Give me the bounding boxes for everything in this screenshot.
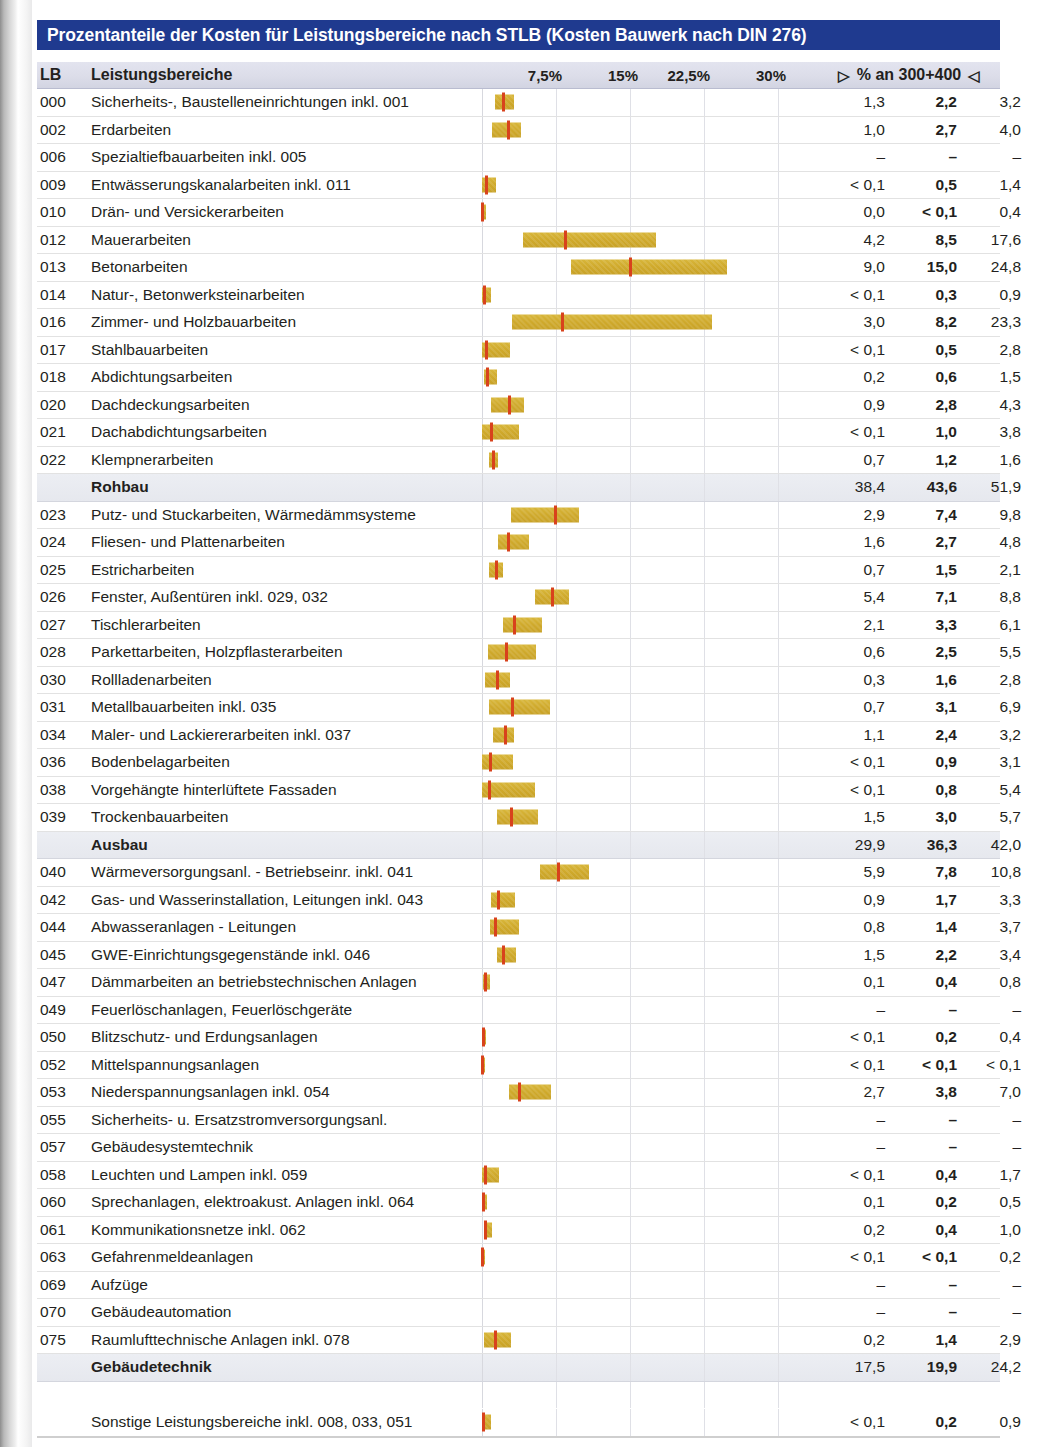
cell-median: 2,2 xyxy=(889,942,957,969)
gridline-g4 xyxy=(778,117,779,144)
cell-max: 3,2 xyxy=(959,89,1021,116)
cell-max: 23,3 xyxy=(959,309,1021,336)
cell-lb: 058 xyxy=(40,1162,88,1189)
cell-name: Trockenbauarbeiten xyxy=(91,804,481,831)
gridline-g4 xyxy=(778,1162,779,1189)
gridline-g0 xyxy=(482,612,483,639)
cell-min: 0,0 xyxy=(797,199,885,226)
gridline-g1 xyxy=(556,254,557,281)
cell-min: 0,7 xyxy=(797,557,885,584)
cell-bar-chart xyxy=(480,722,805,749)
cell-bar-chart xyxy=(480,804,805,831)
gridline-g1 xyxy=(556,474,557,501)
cell-min: < 0,1 xyxy=(797,337,885,364)
cell-median: 2,7 xyxy=(889,529,957,556)
cell-median: 2,7 xyxy=(889,117,957,144)
median-marker xyxy=(510,808,513,827)
cell-bar-chart xyxy=(480,254,805,281)
cell-name: Mauerarbeiten xyxy=(91,227,481,254)
cell-max: – xyxy=(959,1272,1021,1299)
cell-min: 0,6 xyxy=(797,639,885,666)
cell-max: 1,4 xyxy=(959,172,1021,199)
cell-lb: 022 xyxy=(40,447,88,474)
cell-max: – xyxy=(959,997,1021,1024)
cell-bar-chart xyxy=(480,997,805,1024)
cell-lb: 025 xyxy=(40,557,88,584)
gridline-g3 xyxy=(704,1299,705,1326)
gridline-g1 xyxy=(556,172,557,199)
range-bar xyxy=(497,810,538,825)
gridline-g4 xyxy=(778,254,779,281)
table-row: 070Gebäudeautomation––– xyxy=(37,1299,1000,1327)
cell-bar-chart xyxy=(480,1244,805,1271)
gridline-g3 xyxy=(704,1079,705,1106)
gridline-g2 xyxy=(630,529,631,556)
cell-bar-chart xyxy=(480,337,805,364)
gridline-g3 xyxy=(704,914,705,941)
gridline-g2 xyxy=(630,419,631,446)
gridline-g1 xyxy=(556,942,557,969)
cell-name: Gefahrenmeldeanlagen xyxy=(91,1244,481,1271)
cell-name: Natur-, Betonwerksteinarbeiten xyxy=(91,282,481,309)
table-row: 058Leuchten und Lampen inkl. 059< 0,10,4… xyxy=(37,1162,1000,1190)
gridline-g1 xyxy=(556,667,557,694)
gridline-g4 xyxy=(778,914,779,941)
cell-min: < 0,1 xyxy=(797,749,885,776)
cell-name: Gas- und Wasserinstallation, Leitungen i… xyxy=(91,887,481,914)
gridline-g2 xyxy=(630,667,631,694)
table-row: 023Putz- und Stuckarbeiten, Wärmedämmsys… xyxy=(37,502,1000,530)
cell-name: Rollladenarbeiten xyxy=(91,667,481,694)
cell-bar-chart xyxy=(480,1299,805,1326)
cell-median: 3,0 xyxy=(889,804,957,831)
gridline-g2 xyxy=(630,1079,631,1106)
table-row: 040Wärmeversorgungsanl. - Betriebseinr. … xyxy=(37,859,1000,887)
cell-min: 4,2 xyxy=(797,227,885,254)
median-marker xyxy=(504,725,507,744)
cell-min: 2,1 xyxy=(797,612,885,639)
cell-bar-chart xyxy=(480,639,805,666)
median-marker xyxy=(482,1028,485,1047)
cell-max: 0,4 xyxy=(959,1024,1021,1051)
gridline-g3 xyxy=(704,1327,705,1354)
cell-lb: 061 xyxy=(40,1217,88,1244)
cell-lb: 036 xyxy=(40,749,88,776)
gridline-g2 xyxy=(630,1409,631,1436)
gridline-g3 xyxy=(704,1189,705,1216)
cell-max: – xyxy=(959,1299,1021,1326)
range-bar xyxy=(488,645,536,660)
table-row: 013Betonarbeiten9,015,024,8 xyxy=(37,254,1000,282)
cell-median: – xyxy=(889,1299,957,1326)
cell-max: 24,2 xyxy=(959,1354,1021,1381)
cell-name: Bodenbelagarbeiten xyxy=(91,749,481,776)
gridline-g4 xyxy=(778,557,779,584)
gridline-g2 xyxy=(630,89,631,116)
cell-lb: 026 xyxy=(40,584,88,611)
gridline-g1 xyxy=(556,1244,557,1271)
cell-max: 8,8 xyxy=(959,584,1021,611)
gridline-g0 xyxy=(482,694,483,721)
cell-bar-chart xyxy=(480,1162,805,1189)
cell-min: 2,7 xyxy=(797,1079,885,1106)
cell-name: Erdarbeiten xyxy=(91,117,481,144)
gridline-g4 xyxy=(778,502,779,529)
gridline-g1 xyxy=(556,419,557,446)
gridline-g2 xyxy=(630,832,631,859)
gridline-g4 xyxy=(778,667,779,694)
cell-max: 1,6 xyxy=(959,447,1021,474)
cell-lb: 023 xyxy=(40,502,88,529)
cell-min: < 0,1 xyxy=(797,1244,885,1271)
table-row-group-total: Rohbau38,443,651,9 xyxy=(37,474,1000,502)
gridline-g1 xyxy=(556,1217,557,1244)
gridline-g2 xyxy=(630,584,631,611)
table-row: 009Entwässerungskanalarbeiten inkl. 011<… xyxy=(37,172,1000,200)
axis-tick-22_5: 22,5% xyxy=(648,62,710,88)
gridline-g3 xyxy=(704,337,705,364)
cell-max: 42,0 xyxy=(959,832,1021,859)
gridline-g0 xyxy=(482,1107,483,1134)
gridline-g1 xyxy=(556,337,557,364)
cell-median: 7,4 xyxy=(889,502,957,529)
gridline-g4 xyxy=(778,419,779,446)
cell-name: Zimmer- und Holzbauarbeiten xyxy=(91,309,481,336)
table-row: 045GWE-Einrichtungsgegenstände inkl. 046… xyxy=(37,942,1000,970)
gridline-g3 xyxy=(704,474,705,501)
